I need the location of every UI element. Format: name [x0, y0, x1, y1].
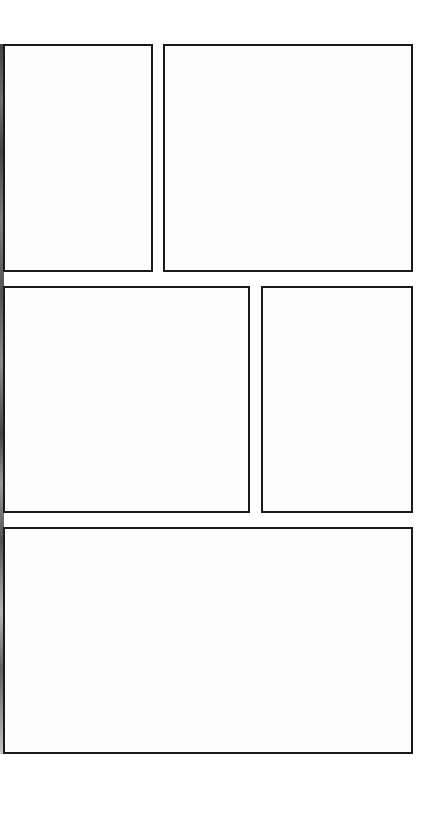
panel-row1-right — [163, 44, 413, 272]
panel-row3-full — [3, 527, 413, 754]
panel-layout-canvas — [0, 0, 440, 816]
panel-row2-left — [3, 286, 250, 513]
panel-row1-left — [3, 44, 153, 272]
panel-row2-right — [261, 286, 413, 513]
